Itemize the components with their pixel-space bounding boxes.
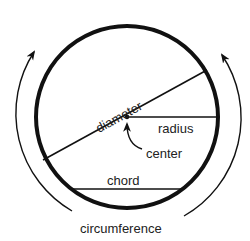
center-label: center xyxy=(146,146,183,161)
circle-diagram: diameter radius center chord circumferen… xyxy=(0,0,250,241)
radius-label: radius xyxy=(158,121,194,136)
circumference-label: circumference xyxy=(80,221,162,236)
center-arrow-icon xyxy=(127,124,142,149)
chord-label: chord xyxy=(107,173,140,188)
